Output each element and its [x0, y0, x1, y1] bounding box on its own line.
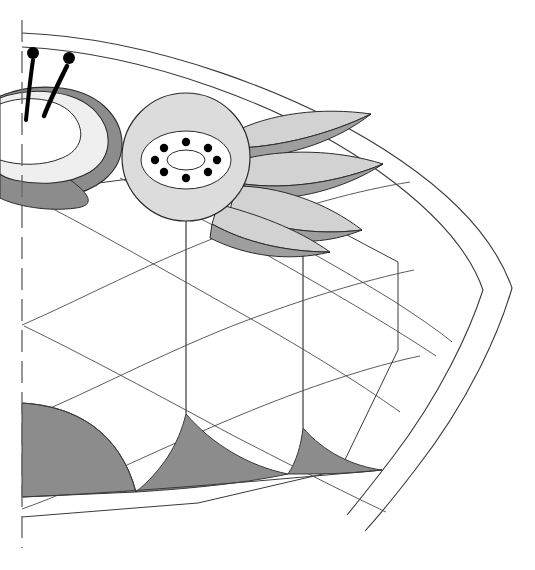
seed-dot-4: [204, 168, 212, 176]
illustration-canvas: Decorative symmetric border pattern Deco…: [0, 0, 535, 570]
seed-dot-7: [151, 156, 159, 164]
pattern-drawing: [0, 0, 535, 570]
flower-core-ellipse: [167, 150, 205, 170]
seed-dot-8: [160, 144, 168, 152]
antenna-right-tip: [63, 52, 75, 64]
seed-dot-1: [182, 138, 190, 146]
flower-head: [122, 93, 250, 221]
antenna-left-tip: [27, 47, 39, 59]
seed-dot-2: [204, 144, 212, 152]
seed-dot-3: [213, 156, 221, 164]
seed-dot-6: [160, 168, 168, 176]
seed-dot-5: [182, 174, 190, 182]
